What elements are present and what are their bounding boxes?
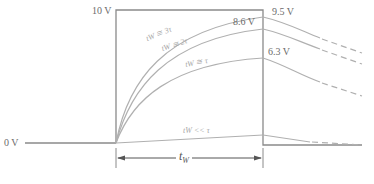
label-8-6v: 8.6 V — [233, 16, 255, 27]
pulse-width-label: tW — [176, 149, 192, 165]
label-6-3v: 6.3 V — [268, 46, 290, 57]
label-0v: 0 V — [4, 137, 19, 148]
label-10v: 10 V — [92, 5, 112, 16]
curve-3tau — [116, 17, 263, 143]
curve-small-tw — [116, 135, 263, 143]
label-9-5v: 9.5 V — [272, 6, 294, 17]
label-curve-small-tw: tW << τ — [183, 126, 210, 135]
